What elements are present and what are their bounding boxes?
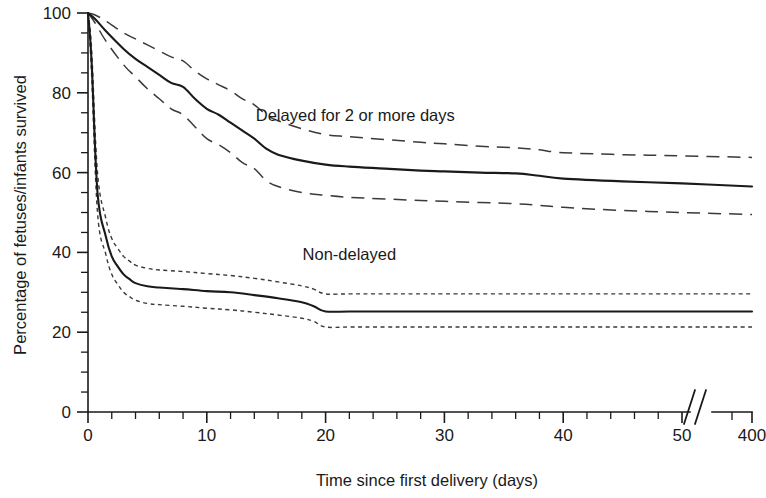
x-axis-tick-label: 20 <box>316 426 335 445</box>
x-axis-tick-label: 10 <box>197 426 216 445</box>
y-axis-tick-label: 40 <box>52 243 71 262</box>
y-axis-tick-label: 100 <box>43 4 71 23</box>
curve-label-delayed: Delayed for 2 or more days <box>256 106 455 124</box>
y-axis-tick-label: 60 <box>52 164 71 183</box>
x-axis-tick-label: 40 <box>554 426 573 445</box>
x-axis-tick-label: 0 <box>83 426 92 445</box>
survival-chart-svg: 02040608010001020304050400 Delayed for 2… <box>0 0 766 498</box>
x-axis-tick-label: 400 <box>738 426 766 445</box>
x-axis-title: Time since first delivery (days) <box>316 471 538 489</box>
y-axis-tick-label: 20 <box>52 323 71 342</box>
x-axis-tick-label: 30 <box>435 426 454 445</box>
survival-chart-figure: 02040608010001020304050400 Delayed for 2… <box>0 0 766 498</box>
y-axis-tick-label: 0 <box>62 403 71 422</box>
y-axis-tick-label: 80 <box>52 84 71 103</box>
curve-label-non-delayed: Non-delayed <box>303 245 397 263</box>
x-axis-tick-label: 50 <box>673 426 692 445</box>
y-axis-title: Percentage of fetuses/infants survived <box>11 75 29 355</box>
